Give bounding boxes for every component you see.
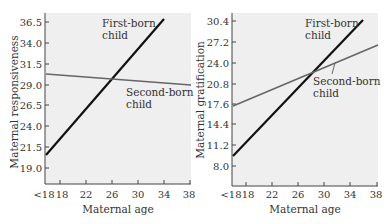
svg-text:child: child [126, 98, 152, 110]
svg-text:17.6: 17.6 [207, 99, 229, 110]
svg-text:22: 22 [80, 189, 93, 200]
svg-text:29.0: 29.0 [20, 80, 42, 91]
svg-text:31.5: 31.5 [20, 59, 42, 70]
x-axis-label: Maternal age [269, 203, 340, 215]
svg-text:26: 26 [106, 189, 119, 200]
svg-text:30: 30 [318, 189, 331, 200]
svg-text:19.0: 19.0 [20, 163, 42, 174]
svg-text:child: child [102, 29, 128, 41]
svg-text:21.5: 21.5 [20, 142, 42, 153]
y-axis-label: Maternal gratification [195, 41, 206, 159]
svg-text:<18: <18 [33, 189, 54, 200]
svg-text:11.2: 11.2 [207, 140, 229, 151]
svg-text:34: 34 [158, 189, 171, 200]
svg-text:34.0: 34.0 [20, 38, 42, 49]
svg-text:20.8: 20.8 [207, 79, 229, 90]
svg-text:30.4: 30.4 [207, 16, 229, 27]
svg-text:30: 30 [132, 189, 145, 200]
svg-text:First-born: First-born [102, 17, 156, 29]
svg-text:Second-born: Second-born [313, 75, 381, 87]
svg-text:child: child [305, 29, 331, 41]
svg-text:18: 18 [242, 189, 255, 200]
x-axis-label: Maternal age [82, 203, 153, 215]
svg-text:<18: <18 [220, 189, 241, 200]
svg-text:24.0: 24.0 [20, 121, 42, 132]
svg-text:First-born: First-born [305, 17, 359, 29]
svg-text:38: 38 [370, 189, 383, 200]
svg-text:8.0: 8.0 [213, 161, 229, 172]
svg-text:child: child [313, 87, 339, 99]
svg-text:18: 18 [56, 189, 69, 200]
svg-text:27.2: 27.2 [207, 37, 229, 48]
svg-text:36.5: 36.5 [20, 17, 42, 28]
svg-text:38: 38 [183, 189, 196, 200]
svg-text:14.4: 14.4 [207, 119, 229, 130]
svg-text:26.5: 26.5 [20, 100, 42, 111]
svg-text:34: 34 [344, 189, 357, 200]
svg-text:22: 22 [266, 189, 279, 200]
svg-text:24.0: 24.0 [207, 58, 229, 69]
y-axis-label: Maternal responsiveness [8, 35, 20, 168]
chart-left-panel: 36.5 34.0 31.5 29.0 26.5 24.0 21.5 19.0 … [0, 0, 196, 224]
chart-right-panel: 30.4 27.2 24.0 20.8 17.6 14.4 11.2 8.0 <… [195, 0, 391, 224]
svg-text:26: 26 [292, 189, 305, 200]
svg-text:Second-born: Second-born [126, 86, 194, 98]
